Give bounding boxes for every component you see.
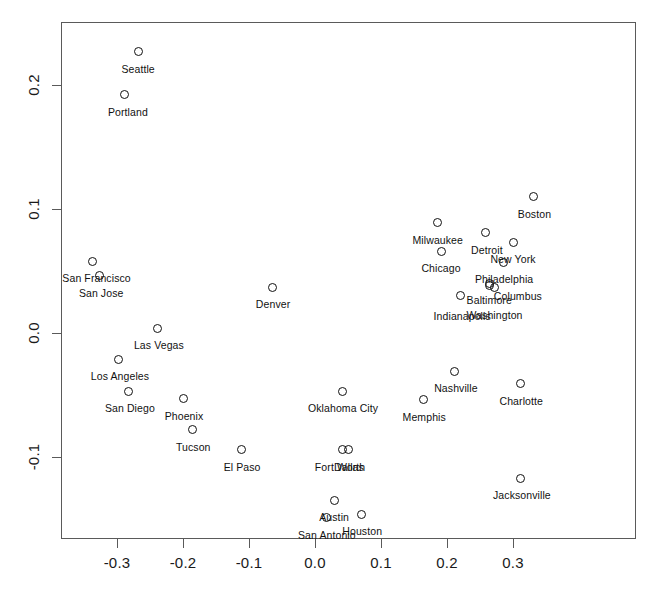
data-point-label: Los Angeles <box>91 370 149 382</box>
data-point <box>330 496 339 505</box>
data-point-label: Seattle <box>121 63 154 75</box>
data-point <box>499 258 508 267</box>
data-point <box>134 47 143 56</box>
x-axis-tick-label: -0.3 <box>104 554 131 571</box>
x-axis-tick-label: -0.1 <box>236 554 263 571</box>
data-point <box>338 387 347 396</box>
data-point-label: Baltimore <box>467 294 512 306</box>
y-axis-tick <box>52 333 61 334</box>
x-axis-tick-label: 0.3 <box>502 554 523 571</box>
data-point-label: Philadelphia <box>475 273 533 285</box>
y-axis-tick-label: 0.1 <box>25 198 42 219</box>
y-axis-tick-label: -0.1 <box>25 444 42 471</box>
data-point-label: Denver <box>256 298 290 310</box>
x-axis-tick-label: -0.2 <box>170 554 197 571</box>
data-point-label: Boston <box>518 208 551 220</box>
data-point-label: San Diego <box>105 402 155 414</box>
data-point-label: Nashville <box>434 382 478 394</box>
data-point <box>88 257 97 266</box>
x-axis-tick <box>183 539 184 548</box>
x-axis-tick <box>513 539 514 548</box>
data-point <box>344 445 353 454</box>
data-point <box>529 192 538 201</box>
x-axis-tick <box>249 539 250 548</box>
data-point-label: Jacksonville <box>493 489 551 501</box>
y-axis-tick <box>52 457 61 458</box>
data-point-label: Phoenix <box>165 410 204 422</box>
data-point-label: Milwaukee <box>412 234 463 246</box>
data-point-label: Chicago <box>421 262 460 274</box>
x-axis-tick <box>117 539 118 548</box>
x-axis-tick-label: 0.0 <box>304 554 325 571</box>
data-point-label: Indianapolis <box>434 310 491 322</box>
data-point-label: Charlotte <box>499 395 543 407</box>
data-point <box>490 283 499 292</box>
y-axis-tick-label: 0.2 <box>25 74 42 95</box>
data-point-label: Las Vegas <box>134 339 184 351</box>
data-point <box>437 247 446 256</box>
y-axis-tick-label: 0.0 <box>25 322 42 343</box>
x-axis-tick <box>447 539 448 548</box>
x-axis-tick-label: 0.1 <box>370 554 391 571</box>
data-point <box>237 445 246 454</box>
y-axis-tick <box>52 85 61 86</box>
y-axis-tick <box>52 209 61 210</box>
data-point <box>456 291 465 300</box>
data-point-label: El Paso <box>224 461 261 473</box>
scatter-plot-figure: -0.3-0.2-0.10.00.10.20.3-0.10.00.10.2 Se… <box>0 0 654 609</box>
x-axis-tick-label: 0.2 <box>436 554 457 571</box>
data-point <box>509 238 518 247</box>
data-point-label: Oklahoma City <box>308 402 378 414</box>
data-point <box>268 283 277 292</box>
data-point-label: Portland <box>108 106 148 118</box>
data-point <box>114 355 123 364</box>
data-point-label: Dallas <box>334 461 364 473</box>
x-axis-tick <box>381 539 382 548</box>
data-point <box>188 425 197 434</box>
data-point-label: Tucson <box>176 441 211 453</box>
data-point <box>179 394 188 403</box>
data-point <box>516 474 525 483</box>
data-point-label: Memphis <box>403 411 446 423</box>
data-point <box>357 510 366 519</box>
data-point <box>153 324 162 333</box>
data-point-label: New York <box>490 253 535 265</box>
data-point-label: San Jose <box>79 287 124 299</box>
data-point-label: Houston <box>342 525 382 537</box>
